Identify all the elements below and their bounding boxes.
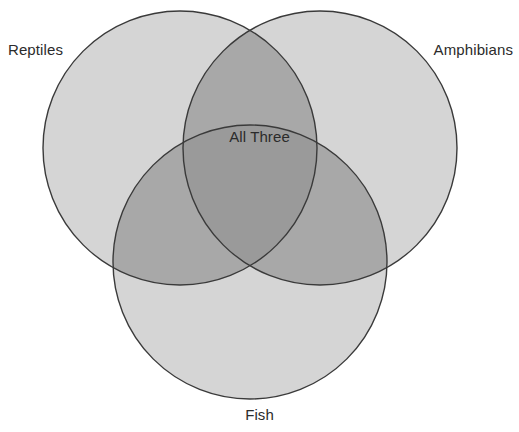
top-edge-artifact-right [104, 0, 106, 7]
venn-diagram-canvas: Reptiles Amphibians All Three Fish [0, 0, 519, 432]
set-label-fish: Fish [245, 406, 274, 423]
intersection-label-all-three: All Three [229, 128, 290, 145]
set-label-amphibians: Amphibians [434, 41, 513, 58]
top-edge-artifact-left [26, 0, 28, 7]
venn-diagram-svg [0, 0, 519, 432]
set-label-reptiles: Reptiles [8, 41, 63, 58]
